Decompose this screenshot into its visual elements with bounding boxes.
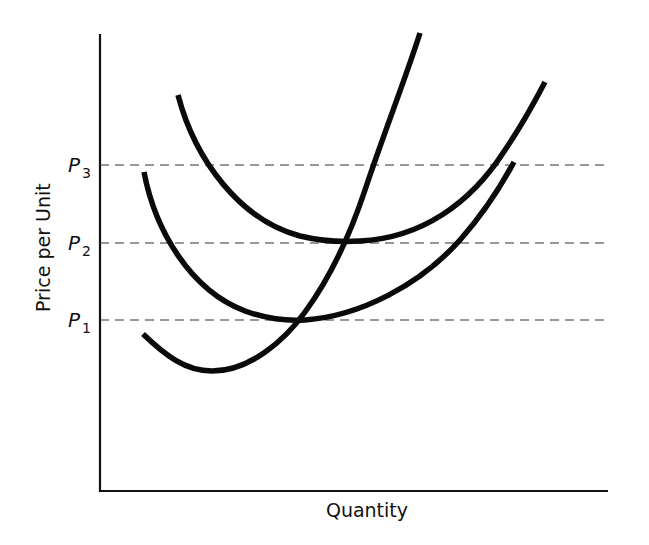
p1-label-sub: 1	[82, 320, 91, 336]
p3-label-sub: 3	[82, 165, 91, 181]
y-axis-label: Price per Unit	[32, 183, 54, 312]
p3-label-main: P	[68, 153, 81, 177]
x-axis-label: Quantity	[326, 499, 408, 521]
p2-label-sub: 2	[82, 243, 91, 259]
cost-curves-diagram: P 3 P 2 P 1 Price per Unit Quantity	[0, 0, 649, 545]
average-total-cost-curve-high	[178, 82, 545, 241]
p3-label: P 3	[68, 153, 91, 181]
p1-label: P 1	[68, 308, 91, 336]
p2-label: P 2	[68, 231, 91, 259]
p2-label-main: P	[68, 231, 81, 255]
p1-label-main: P	[68, 308, 81, 332]
